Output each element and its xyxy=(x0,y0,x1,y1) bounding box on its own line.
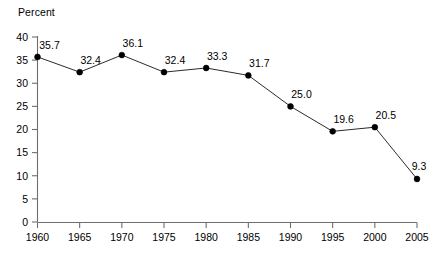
data-point-marker xyxy=(77,69,83,75)
chart-plot-area: 0510152025303540 19601965197019751980198… xyxy=(0,0,440,264)
y-tick-label: 40 xyxy=(16,31,28,43)
data-point-marker xyxy=(161,69,167,75)
data-point-marker xyxy=(35,54,41,60)
x-tick-label: 1965 xyxy=(68,231,92,243)
x-tick-label: 2000 xyxy=(363,231,387,243)
y-tick-label: 20 xyxy=(16,123,28,135)
y-axis: 0510152025303540 xyxy=(16,31,37,228)
y-tick-label: 0 xyxy=(22,216,28,228)
data-point-label: 32.4 xyxy=(165,54,186,66)
y-tick-label: 35 xyxy=(16,54,28,66)
data-point-label: 20.5 xyxy=(376,109,397,121)
data-point-label: 32.4 xyxy=(80,54,101,66)
y-tick-labels: 0510152025303540 xyxy=(16,31,28,228)
x-tick-label: 1985 xyxy=(237,231,261,243)
data-point-label: 19.6 xyxy=(333,113,354,125)
x-axis: 1960196519701975198019851990199520002005 xyxy=(26,223,429,244)
x-tick-label: 1975 xyxy=(152,231,176,243)
data-point-marker xyxy=(372,124,378,130)
y-tick-label: 5 xyxy=(22,193,28,205)
x-tick-label: 1960 xyxy=(26,231,50,243)
x-tick-label: 2005 xyxy=(405,231,429,243)
y-tick-label: 15 xyxy=(16,146,28,158)
data-point-labels: 35.732.436.132.433.331.725.019.620.59.3 xyxy=(39,37,426,172)
x-tick-marks xyxy=(38,223,418,229)
data-point-marker xyxy=(203,65,209,71)
data-point-marker xyxy=(245,72,251,78)
data-point-marker xyxy=(288,103,294,109)
x-tick-label: 1980 xyxy=(194,231,218,243)
y-tick-marks xyxy=(32,37,38,222)
data-point-label: 9.3 xyxy=(412,160,427,172)
x-tick-labels: 1960196519701975198019851990199520002005 xyxy=(26,231,429,243)
data-point-label: 36.1 xyxy=(123,37,144,49)
y-tick-label: 10 xyxy=(16,170,28,182)
data-point-label: 35.7 xyxy=(39,39,60,51)
data-series-line xyxy=(38,55,418,179)
x-tick-label: 1990 xyxy=(279,231,303,243)
x-tick-label: 1970 xyxy=(110,231,134,243)
data-point-marker xyxy=(414,176,420,182)
y-tick-label: 25 xyxy=(16,100,28,112)
data-point-label: 33.3 xyxy=(207,50,228,62)
line-chart: Percent 0510152025303540 196019651970197… xyxy=(0,0,440,264)
x-tick-label: 1995 xyxy=(321,231,345,243)
y-tick-label: 30 xyxy=(16,77,28,89)
data-point-marker xyxy=(119,52,125,58)
data-point-label: 25.0 xyxy=(291,88,312,100)
data-point-marker xyxy=(330,128,336,134)
data-point-label: 31.7 xyxy=(249,57,270,69)
